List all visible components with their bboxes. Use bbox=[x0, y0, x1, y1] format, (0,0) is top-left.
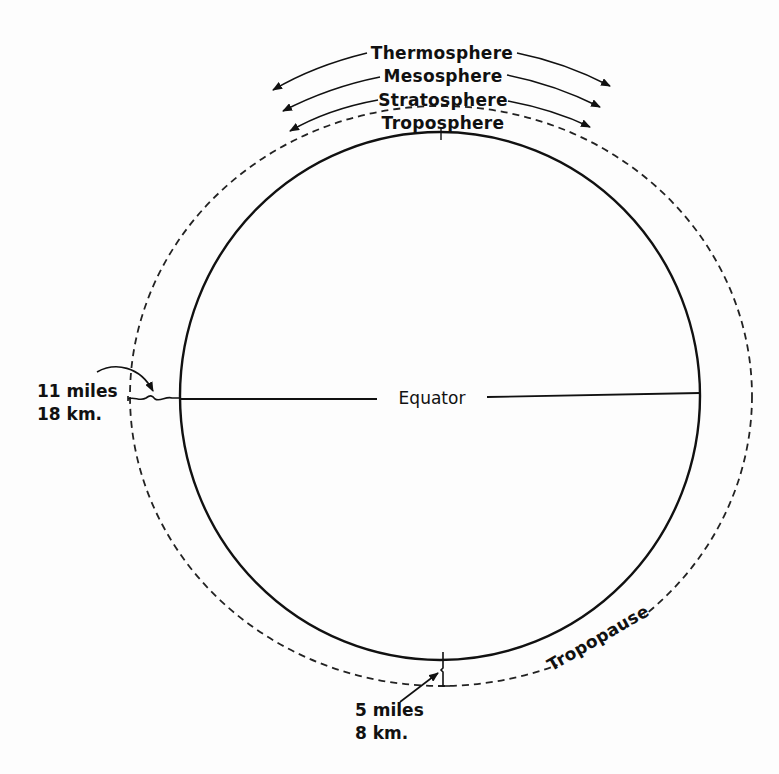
label-troposphere: Troposphere bbox=[382, 113, 505, 133]
pole-height-marker bbox=[441, 652, 450, 686]
label-thermosphere: Thermosphere bbox=[371, 43, 513, 63]
equator-height-marker bbox=[128, 396, 180, 401]
mesosphere-arrow-left bbox=[283, 77, 380, 111]
label-pole-height-km: 8 km. bbox=[355, 723, 408, 743]
label-pole-height-miles: 5 miles bbox=[355, 700, 424, 720]
figure-page: Thermosphere Mesosphere Stratosphere Tro… bbox=[0, 0, 779, 774]
label-equator-height-miles: 11 miles bbox=[37, 381, 118, 401]
label-equator-height-km: 18 km. bbox=[37, 404, 102, 424]
thermosphere-arrow-left bbox=[273, 53, 367, 90]
equator-line-right bbox=[487, 393, 700, 397]
label-equator: Equator bbox=[399, 388, 466, 408]
label-stratosphere: Stratosphere bbox=[378, 90, 507, 110]
label-mesosphere: Mesosphere bbox=[383, 66, 502, 86]
atmosphere-diagram: Thermosphere Mesosphere Stratosphere Tro… bbox=[0, 0, 779, 774]
pole-height-arrow bbox=[400, 673, 438, 702]
label-tropopause: Tropopause bbox=[544, 601, 653, 675]
mesosphere-arrow-right bbox=[507, 75, 600, 107]
